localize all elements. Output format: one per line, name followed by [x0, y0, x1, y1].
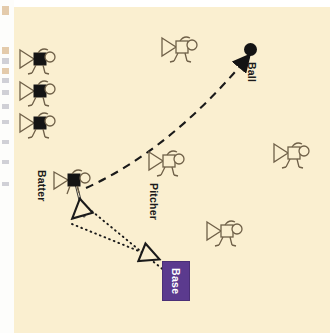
fielder-light-low [207, 221, 242, 246]
base-marker: Base [162, 261, 190, 301]
ball-label: Ball [246, 62, 258, 82]
fielder-dark-2 [20, 81, 55, 106]
pitcher-figure [149, 151, 184, 176]
ball-marker [244, 43, 257, 56]
diagram-canvas: Ball Batter Pitcher Base [0, 0, 330, 333]
ball-trajectory-path [86, 58, 247, 188]
fielder-dark-3 [20, 113, 55, 138]
pitcher-label: Pitcher [148, 183, 160, 220]
batter-label: Batter [36, 170, 48, 202]
base-label: Base [170, 268, 182, 294]
fielder-light-outfield [162, 37, 197, 62]
batter-figure [54, 170, 90, 194]
fielder-dark-1 [20, 49, 55, 74]
fielder-light-right [274, 143, 309, 168]
